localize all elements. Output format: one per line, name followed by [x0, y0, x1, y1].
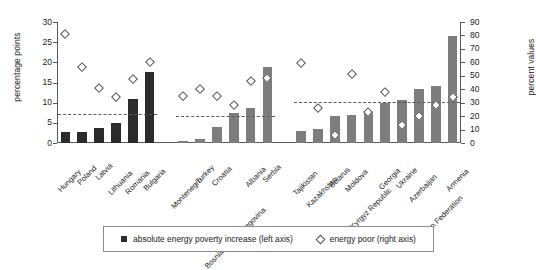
y-axis-left-tick	[53, 62, 57, 63]
bar-hungary	[61, 132, 71, 143]
bar-moldova	[347, 115, 357, 143]
y-axis-right-tick	[461, 49, 465, 50]
y-axis-right-tick	[461, 116, 465, 117]
group-average-line-eu-members	[58, 114, 157, 115]
diamond-croatia	[212, 91, 222, 101]
y-axis-right-tick-label: 90	[470, 18, 510, 27]
bar-croatia	[212, 127, 222, 143]
y-axis-right-line	[460, 22, 461, 143]
y-axis-left-tick	[53, 22, 57, 23]
y-axis-right-tick	[461, 76, 465, 77]
bar-albania	[246, 108, 256, 143]
y-axis-right-tick-label: 20	[470, 112, 510, 121]
x-axis-label-kazakhstan: Kazakhstan	[304, 175, 338, 209]
group-average-line-south-east-europe	[176, 116, 275, 117]
y-axis-right-tick-label: 80	[470, 31, 510, 40]
legend-label-energy-poor: energy poor (right axis)	[330, 234, 416, 244]
y-axis-right-tick-label: 30	[470, 98, 510, 107]
x-axis-label-ukraine: Ukraine	[394, 166, 419, 191]
diamond-hungary	[60, 29, 70, 39]
diamond-bulgaria	[144, 57, 154, 67]
bar-georgia	[380, 103, 390, 143]
x-axis-label-hungary: Hungary	[57, 167, 84, 194]
plot-area: 051015202530 0102030405060708090	[57, 22, 461, 143]
bar-poland	[77, 132, 87, 143]
y-axis-right-tick-label: 60	[470, 58, 510, 67]
y-axis-right-title: percent values	[526, 12, 536, 122]
diamond-latvia	[94, 83, 104, 93]
y-axis-right-tick-label: 50	[470, 71, 510, 80]
y-axis-left-tick	[53, 83, 57, 84]
x-axis-label-croatia: Croatia	[210, 164, 234, 188]
bar-bulgaria	[145, 72, 155, 143]
chart-legend: absolute energy poverty increase (left a…	[103, 226, 434, 252]
x-axis-label-bulgaria: Bulgaria	[141, 167, 167, 193]
x-axis-label-romania: Romania	[123, 168, 151, 196]
bar-bosnia-and-herzegovina	[229, 113, 239, 143]
x-axis-label-lithuania: Lithuania	[106, 169, 134, 197]
diamond-tajikistan	[296, 58, 306, 68]
y-axis-left-tick-label: 25	[12, 38, 52, 47]
x-axis-label-georgia: Georgia	[377, 166, 402, 191]
x-axis-label-kyrgyz-republic: Kyrgyz Republic	[349, 186, 394, 231]
x-axis-label-poland: Poland	[75, 164, 98, 187]
diamond-turkey	[195, 84, 205, 94]
y-axis-right-tick-label: 70	[470, 44, 510, 53]
x-axis-label-montenegro: Montenegro	[169, 176, 204, 211]
bar-montenegro	[178, 141, 188, 143]
y-axis-left-line	[57, 22, 58, 143]
bar-armenia	[448, 36, 458, 143]
x-axis-label-albania: Albania	[243, 165, 267, 189]
x-axis-label-tajikistan: Tajikistan	[291, 169, 319, 197]
diamond-poland	[77, 62, 87, 72]
chart-figure: percentage points percent values 0510152…	[0, 0, 536, 270]
diamond-montenegro	[178, 91, 188, 101]
y-axis-left-tick-label: 0	[12, 139, 52, 148]
x-axis-label-serbia: Serbia	[261, 163, 283, 185]
diamond-bosnia-and-herzegovina	[229, 100, 239, 110]
legend-label-absolute-increase: absolute energy poverty increase (left a…	[133, 234, 293, 244]
y-axis-left-tick	[53, 42, 57, 43]
diamond-lithuania	[111, 92, 121, 102]
x-axis-label-azerbaijan: Azerbaijan	[407, 172, 439, 204]
y-axis-right-tick-label: 0	[470, 139, 510, 148]
x-axis-label-latvia: Latvia	[94, 161, 115, 182]
bar-russian-federation	[431, 86, 441, 143]
y-axis-right-tick	[461, 130, 465, 131]
y-axis-right-tick-label: 40	[470, 85, 510, 94]
legend-item-absolute-increase: absolute energy poverty increase (left a…	[121, 234, 293, 244]
diamond-moldova	[346, 69, 356, 79]
bar-latvia	[94, 128, 104, 143]
diamond-kazakhstan	[313, 103, 323, 113]
y-axis-left-tick-label: 15	[12, 78, 52, 87]
x-axis-label-moldova: Moldova	[343, 167, 370, 194]
bar-kazakhstan	[313, 129, 323, 143]
x-axis-label-belarus: Belarus	[327, 165, 352, 190]
y-axis-left-tick	[53, 143, 57, 144]
bar-turkey	[195, 139, 205, 143]
bar-tajikistan	[296, 131, 306, 143]
diamond-georgia	[380, 87, 390, 97]
y-axis-left-tick-label: 30	[12, 18, 52, 27]
legend-item-energy-poor: energy poor (right axis)	[317, 234, 416, 244]
y-axis-right-tick	[461, 143, 465, 144]
y-axis-right-tick	[461, 35, 465, 36]
diamond-romania	[128, 75, 138, 85]
y-axis-right-tick	[461, 22, 465, 23]
square-marker-icon	[121, 236, 127, 242]
y-axis-right-tick	[461, 103, 465, 104]
diamond-marker-icon	[315, 234, 325, 244]
y-axis-left-tick-label: 10	[12, 98, 52, 107]
y-axis-left-tick	[53, 103, 57, 104]
x-axis-label-armenia: Armenia	[444, 167, 470, 193]
y-axis-left-tick-label: 5	[12, 118, 52, 127]
bar-romania	[128, 99, 138, 143]
y-axis-right-tick	[461, 62, 465, 63]
bar-lithuania	[111, 123, 121, 143]
y-axis-left-tick-label: 20	[12, 58, 52, 67]
y-axis-left-tick	[53, 123, 57, 124]
y-axis-right-tick-label: 10	[470, 125, 510, 134]
y-axis-right-tick	[461, 89, 465, 90]
x-axis-label-turkey: Turkey	[194, 163, 217, 186]
diamond-albania	[245, 76, 255, 86]
